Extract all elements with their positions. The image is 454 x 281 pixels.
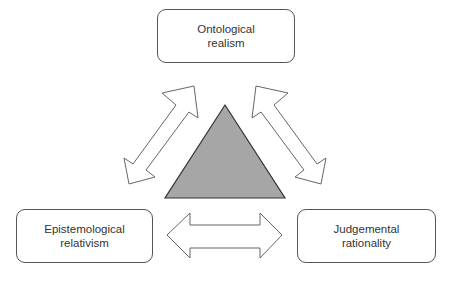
node-label-line: Ontological (197, 22, 255, 36)
arrow-left-right (167, 213, 282, 258)
node-ontological-realism: Ontological realism (157, 9, 295, 63)
node-label-line: realism (197, 36, 255, 50)
node-label-line: Judgemental (334, 222, 400, 236)
node-label-line: rationality (334, 236, 400, 250)
node-judgemental-rationality: Judgemental rationality (297, 209, 436, 263)
node-label-line: relativism (44, 236, 125, 250)
node-label-line: Epistemological (44, 222, 125, 236)
node-epistemological-relativism: Epistemological relativism (16, 209, 153, 263)
